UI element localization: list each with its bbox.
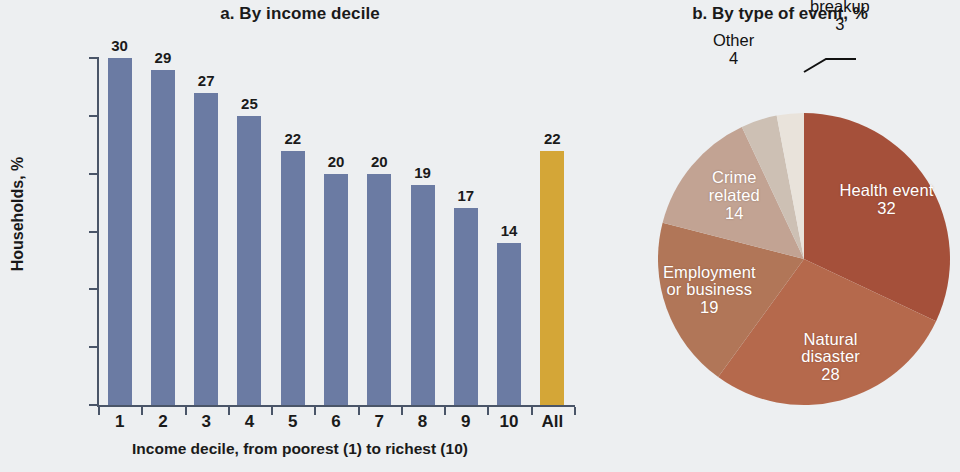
bar-value-label: 20: [313, 153, 359, 170]
x-tick-label-9: 9: [443, 412, 489, 432]
x-tick-label-all: All: [529, 412, 575, 432]
pie-label-text: Natural: [741, 331, 921, 349]
panel-a-y-axis-label: Households, %: [9, 124, 27, 304]
x-tick-label-6: 6: [313, 412, 359, 432]
bar-value-label: 22: [529, 130, 575, 147]
pie-label-text: or business: [619, 281, 799, 299]
y-tick-mark: [89, 404, 97, 406]
bar-all: [540, 151, 564, 405]
bar-decile-9: [454, 208, 478, 405]
x-tick-label-7: 7: [356, 412, 402, 432]
pie-label-text: disaster: [741, 348, 921, 366]
bar-decile-10: [497, 243, 521, 405]
pie-label-household-breakup: Householdbreakup3: [750, 0, 930, 33]
x-tick-label-5: 5: [270, 412, 316, 432]
bar-decile-5: [281, 151, 305, 405]
x-tick-mark: [574, 407, 576, 415]
y-tick-mark: [89, 173, 97, 175]
panel-b-pie-chart: b. By type of event, % Health event32Nat…: [600, 0, 960, 472]
bar-value-label: 27: [183, 72, 229, 89]
bar-value-label: 22: [270, 130, 316, 147]
y-tick-mark: [89, 288, 97, 290]
bar-decile-7: [367, 174, 391, 405]
x-tick-label-10: 10: [486, 412, 532, 432]
x-tick-label-8: 8: [400, 412, 446, 432]
pie-graphic: Health event32Naturaldisaster28Employmen…: [600, 0, 960, 472]
pie-label-text: Crime: [644, 169, 824, 187]
bar-decile-2: [151, 70, 175, 405]
pie-label-text: breakup: [750, 0, 930, 15]
bar-value-label: 19: [400, 164, 446, 181]
pie-label-value: 14: [644, 205, 824, 223]
y-tick-mark: [89, 57, 97, 59]
pie-label-value: 3: [750, 15, 930, 33]
pie-label-employment-or-business: Employmentor business19: [619, 264, 799, 317]
x-tick-label-2: 2: [140, 412, 186, 432]
bar-value-label: 20: [356, 153, 402, 170]
bar-value-label: 25: [226, 95, 272, 112]
pie-svg: [600, 0, 960, 472]
panel-a-x-axis-caption: Income decile, from poorest (1) to riche…: [0, 440, 600, 458]
bar-decile-4: [237, 116, 261, 405]
pie-label-crime-related: Crimerelated14: [644, 169, 824, 222]
bar-value-label: 29: [140, 49, 186, 66]
bar-decile-1: [108, 58, 132, 405]
x-axis-line: [97, 405, 575, 407]
bar-decile-3: [194, 93, 218, 405]
pie-label-text: Other: [644, 31, 824, 49]
pie-label-text: Employment: [619, 264, 799, 282]
y-tick-mark: [89, 346, 97, 348]
x-tick-label-3: 3: [183, 412, 229, 432]
pie-label-value: 19: [619, 299, 799, 317]
figure-root: a. By income decile Households, % 051015…: [0, 0, 960, 472]
y-tick-mark: [89, 115, 97, 117]
pie-label-value: 28: [741, 366, 921, 384]
panel-a-title: a. By income decile: [0, 4, 600, 24]
bar-value-label: 30: [97, 37, 143, 54]
bar-decile-8: [411, 185, 435, 405]
pie-label-other: Other4: [644, 31, 824, 67]
x-tick-label-4: 4: [226, 412, 272, 432]
bar-value-label: 14: [486, 222, 532, 239]
x-tick-label-1: 1: [97, 412, 143, 432]
pie-label-value: 4: [644, 49, 824, 67]
panel-a-bar-chart: a. By income decile Households, % 051015…: [0, 0, 600, 472]
pie-label-text: related: [644, 187, 824, 205]
bar-decile-6: [324, 174, 348, 405]
y-axis-line: [97, 57, 99, 407]
bar-value-label: 17: [443, 187, 489, 204]
pie-label-natural-disaster: Naturaldisaster28: [741, 331, 921, 384]
y-tick-mark: [89, 231, 97, 233]
